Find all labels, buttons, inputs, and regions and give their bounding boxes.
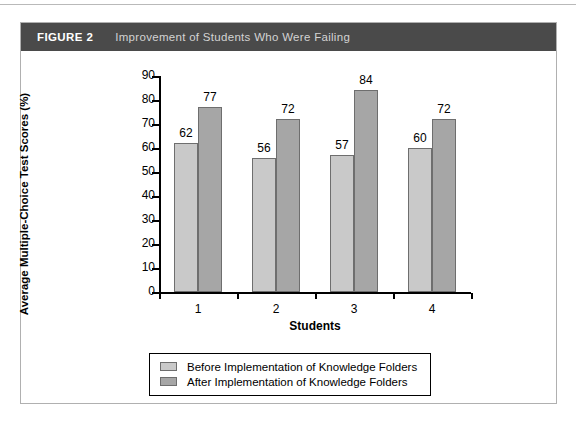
x-tick-label: 4 (429, 302, 436, 316)
x-tick-mark (393, 293, 395, 299)
bar-value-label: 77 (203, 90, 216, 104)
x-tick-label: 1 (195, 302, 202, 316)
bar (354, 90, 378, 292)
bar-value-label: 72 (281, 102, 294, 116)
y-tick-label: 30 (142, 212, 155, 226)
bar (330, 155, 354, 292)
legend-label-before: Before Implementation of Knowledge Folde… (187, 361, 417, 373)
bar (432, 119, 456, 292)
y-tick-label: 40 (142, 188, 155, 202)
legend-label-after: After Implementation of Knowledge Folder… (187, 376, 408, 388)
y-axis-title: Average Multiple-Choice Test Scores (%) (18, 89, 30, 319)
x-tick-mark (471, 293, 473, 299)
legend-item: Before Implementation of Knowledge Folde… (160, 359, 422, 374)
y-tick-label: 80 (142, 92, 155, 106)
bar-value-label: 56 (257, 141, 270, 155)
bar (198, 107, 222, 292)
chart-plot: Average Multiple-Choice Test Scores (%) … (21, 51, 556, 405)
bar-value-label: 84 (359, 73, 372, 87)
y-tick-label: 10 (142, 260, 155, 274)
bar (408, 148, 432, 292)
x-tick-mark (315, 293, 317, 299)
chart-legend: Before Implementation of Knowledge Folde… (149, 353, 431, 396)
y-tick-label: 50 (142, 164, 155, 178)
y-tick-label: 60 (142, 140, 155, 154)
legend-swatch-after (160, 377, 177, 386)
x-axis-title: Students (159, 319, 471, 333)
y-tick-label: 70 (142, 116, 155, 130)
bar-value-label: 57 (335, 138, 348, 152)
y-tick-label: 90 (142, 68, 155, 82)
x-tick-mark (159, 293, 161, 299)
bar-value-label: 72 (437, 102, 450, 116)
plot-area: 9080706050403020100 1234 627756725784607… (159, 76, 471, 292)
x-tick-label: 3 (351, 302, 358, 316)
bar (174, 143, 198, 292)
y-tick-label: 0 (148, 284, 155, 298)
y-axis-line (159, 76, 161, 293)
figure-caption-bar: FIGURE 2 Improvement of Students Who Wer… (21, 23, 556, 51)
x-tick-label: 2 (273, 302, 280, 316)
legend-item: After Implementation of Knowledge Folder… (160, 374, 422, 389)
bar (252, 158, 276, 292)
y-tick-label: 20 (142, 236, 155, 250)
bar-value-label: 60 (413, 131, 426, 145)
x-tick-mark (237, 293, 239, 299)
bar-value-label: 62 (179, 126, 192, 140)
figure-number-label: FIGURE 2 (37, 31, 93, 43)
figure-title: Improvement of Students Who Were Failing (115, 31, 350, 43)
figure-container: FIGURE 2 Improvement of Students Who Wer… (20, 22, 557, 404)
legend-swatch-before (160, 362, 177, 371)
bar (276, 119, 300, 292)
page-top-rule (0, 4, 576, 5)
